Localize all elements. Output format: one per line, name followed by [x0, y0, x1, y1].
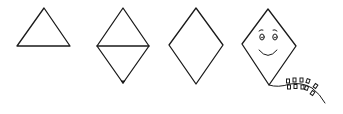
left-eyebrow-icon: [259, 30, 263, 31]
kite-face: [259, 30, 277, 56]
smile-icon: [259, 50, 277, 56]
step-4-kite: [242, 9, 325, 103]
right-eyebrow-icon: [273, 30, 277, 31]
step-2-diamond-with-crossbar: [97, 8, 149, 84]
bottom-dot-icon: [121, 81, 126, 85]
kite-drawing-steps-figure: [0, 0, 343, 114]
kite-tail: [269, 78, 325, 103]
step-3-diamond: [169, 8, 223, 84]
step-1-triangle: [17, 8, 70, 46]
